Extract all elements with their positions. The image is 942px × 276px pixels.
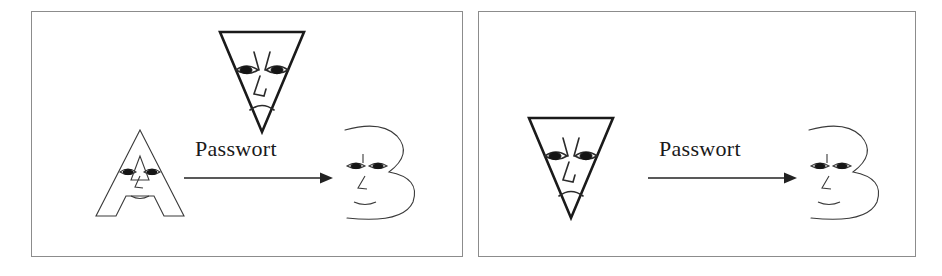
panel-left: Passwort (31, 11, 463, 257)
eavesdropper-triangle-face-icon (214, 26, 310, 138)
scene-left: Passwort (32, 12, 462, 256)
sender-letter-a-face-icon (90, 124, 190, 224)
channel-label-passwort: Passwort (195, 136, 277, 162)
channel-label-passwort: Passwort (659, 136, 741, 162)
panel-right: Passwort (478, 11, 916, 257)
channel-arrow-icon (184, 170, 334, 186)
receiver-letter-b-face-icon (337, 120, 445, 228)
receiver-letter-b-face-icon (801, 120, 909, 228)
channel-arrow-icon (648, 170, 798, 186)
figure-root: Passwort (0, 0, 942, 276)
impersonator-triangle-face-icon (523, 112, 619, 224)
scene-right: Passwort (479, 12, 915, 256)
